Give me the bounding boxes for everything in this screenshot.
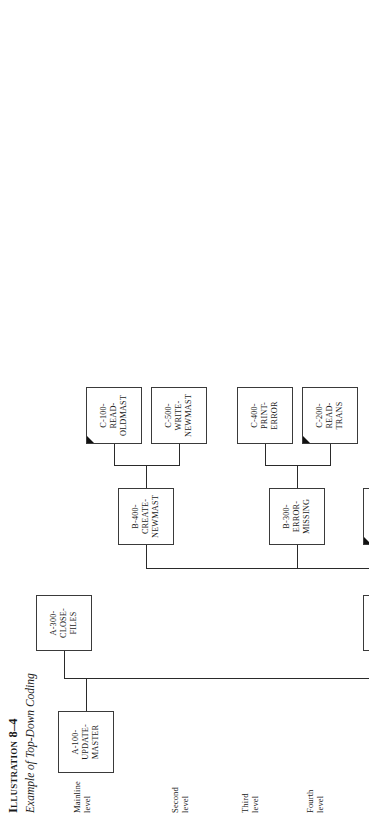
- node-line: MASTER: [91, 725, 101, 760]
- node-line: A-100-: [71, 730, 81, 755]
- node-line: B-300-: [282, 504, 292, 528]
- figure-caption: Illustration 8–4 Example of Top-Down Cod…: [6, 493, 38, 813]
- node-line: CLOSE-: [59, 608, 69, 638]
- node-line: PRINT-: [260, 402, 270, 429]
- node-line: WRITE-: [174, 401, 184, 431]
- level-label-mainline: Mainline level: [72, 781, 93, 813]
- node-c400-print-error[interactable]: C-400- PRINT- ERROR: [237, 387, 293, 444]
- level-label-second: Second level: [170, 787, 191, 813]
- node-line: FILES: [69, 612, 79, 635]
- node-line: C-400-: [250, 403, 260, 427]
- edge-b100-b300: [297, 545, 298, 569]
- node-line: B-400-: [131, 504, 141, 528]
- node-b300-error-missing[interactable]: B-300- ERROR- MISSING: [269, 488, 325, 545]
- edge-bus-a300: [64, 651, 65, 679]
- edge-b400-c500: [179, 444, 180, 466]
- bus-mainline-down: [86, 678, 369, 679]
- figure-subtitle: Example of Top-Down Coding: [23, 493, 39, 813]
- figure-caption-title: Illustration 8–4: [6, 493, 22, 813]
- node-line: MISSING: [302, 499, 312, 534]
- node-line: TRANS: [335, 402, 345, 430]
- node-line: ERROR: [270, 401, 280, 429]
- node-c200-read-trans-process[interactable]: C-200- READ- TRANS: [363, 488, 369, 545]
- node-line: C-500-: [164, 403, 174, 427]
- node-line: UPDATE-: [81, 724, 91, 760]
- node-b400-create-newmast[interactable]: B-400- CREATE- NEWMAST: [118, 488, 174, 545]
- node-line: OLDMAST: [119, 395, 129, 436]
- edge-b300-bus: [297, 466, 298, 488]
- node-line: C-100-: [99, 403, 109, 427]
- bus-b400: [114, 465, 180, 466]
- node-line: READ-: [109, 402, 119, 428]
- node-c200-read-trans-error[interactable]: C-200- READ- TRANS: [302, 387, 358, 444]
- figure-canvas: Illustration 8–4 Example of Top-Down Cod…: [0, 0, 369, 821]
- bus-b100: [146, 568, 369, 569]
- level-label-fourth: Fourth level: [305, 789, 326, 813]
- edge-a100-bus: [86, 679, 87, 711]
- node-line: NEWMAST: [151, 495, 161, 538]
- edge-b400-bus: [146, 466, 147, 488]
- level-label-third: Third level: [240, 793, 261, 813]
- figure-label: Illustration 8–4: [6, 718, 20, 813]
- bus-b300: [265, 465, 331, 466]
- node-line: NEWMAST: [184, 394, 194, 437]
- node-b100-process-records[interactable]: B-100- PROCESS- RECORDS: [363, 595, 369, 651]
- bus-mainline-up2: [64, 678, 87, 679]
- edge-b300-c400: [265, 444, 266, 466]
- node-c100-read-oldmast-newmast[interactable]: C-100- READ- OLDMAST: [86, 387, 142, 444]
- edge-b400-c100: [114, 444, 115, 466]
- node-line: READ-: [325, 402, 335, 428]
- edge-b300-c200: [330, 444, 331, 466]
- node-line: C-200-: [315, 403, 325, 427]
- node-line: CREATE-: [141, 499, 151, 534]
- node-line: A-300-: [49, 611, 59, 636]
- node-a100-update-master[interactable]: A-100- UPDATE- MASTER: [58, 711, 114, 773]
- node-a300-close-files[interactable]: A-300- CLOSE- FILES: [36, 595, 92, 651]
- node-c500-write-newmast[interactable]: C-500- WRITE- NEWMAST: [151, 387, 207, 444]
- node-line: ERROR-: [292, 501, 302, 532]
- edge-b100-b400: [146, 545, 147, 569]
